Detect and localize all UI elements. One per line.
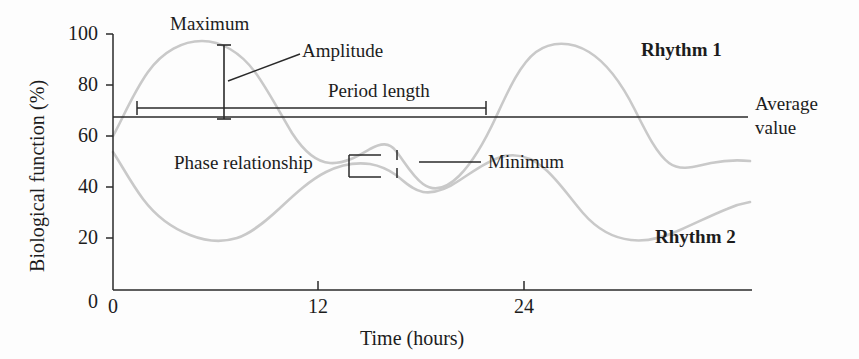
y-tick-label-80: 80 (44, 73, 98, 96)
amplitude-leader-line (228, 54, 300, 81)
phase-relationship-label: Phase relationship (174, 152, 313, 174)
y-tick-label-20: 20 (44, 226, 98, 249)
rhythm-2-label: Rhythm 2 (655, 226, 736, 248)
maximum-label: Maximum (170, 13, 249, 35)
rhythm-curves (113, 41, 750, 241)
x-tick-label-12: 12 (298, 295, 338, 318)
minimum-label: Minimum (488, 151, 564, 173)
y-tick-label-60: 60 (44, 124, 98, 147)
period-length-bar (137, 101, 486, 115)
average-value-label-line1: Average (755, 93, 818, 115)
average-value-label-line2: value (755, 117, 796, 139)
y-tick-label-100: 100 (44, 22, 98, 45)
amplitude-label: Amplitude (302, 40, 383, 62)
x-tick-label-24: 24 (504, 295, 544, 318)
x-tick-label-0: 0 (93, 295, 133, 318)
y-tick-label-0: 0 (44, 290, 98, 313)
period-length-label: Period length (328, 80, 430, 102)
rhythm-1-label: Rhythm 1 (641, 39, 722, 61)
x-axis-title: Time (hours) (360, 327, 464, 350)
y-tick-label-40: 40 (44, 175, 98, 198)
biological-rhythm-figure: Biological function (%) 100 80 60 40 20 … (0, 0, 859, 359)
